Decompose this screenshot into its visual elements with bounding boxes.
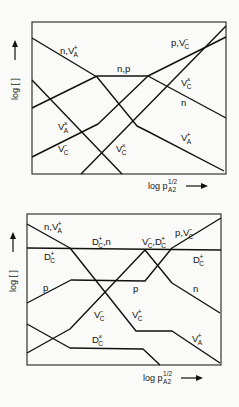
curve-label: n,V+A: [60, 44, 79, 58]
brouwer-diagrams: n,V+An,pp,V−CV×CnV×AV−CV×CV+Alog p1/2A2l…: [0, 0, 239, 407]
curve-label: p: [43, 282, 48, 293]
curve-label: V−C: [58, 142, 69, 156]
curve-label: V+C: [132, 308, 143, 322]
defect-concentration-line: [32, 80, 122, 174]
defect-concentration-line: [32, 76, 148, 157]
curve-label: V+A: [192, 332, 203, 346]
x-axis-label: log p1/2A2: [143, 370, 172, 385]
arrow-head-icon: [196, 375, 203, 381]
chart-2: n,V+AD+CD+C,nV−C,D+Cp,V−CD+CppnV−CV+CD×C…: [8, 214, 221, 385]
curve-label: p,V−C: [171, 36, 190, 50]
defect-concentration-line: [27, 248, 221, 250]
y-axis-label-group: log [ ]: [10, 40, 20, 100]
y-axis-label: log [ ]: [10, 78, 20, 100]
arrow-head-icon: [12, 40, 18, 47]
x-axis-label: log p1/2A2: [148, 178, 177, 193]
curve-label: V−C,D+C: [142, 235, 166, 249]
curve-label: D+C: [193, 253, 204, 267]
curve-label: n,V+A: [44, 220, 63, 234]
curve-label: D+C,n: [92, 235, 111, 249]
curve-label: n,p: [117, 63, 130, 74]
curve-label: n: [193, 283, 198, 294]
curve-label: D+C: [44, 250, 55, 264]
curve-label: V+A: [181, 131, 192, 145]
curve-label: V×C: [181, 76, 192, 90]
arrow-head-icon: [10, 232, 16, 239]
curve-label: p,V−C: [175, 226, 194, 240]
curve-label: p: [133, 283, 138, 294]
curve-label: D×C: [92, 333, 103, 347]
curve-label: n: [181, 97, 186, 108]
curve-label: V×A: [58, 120, 69, 134]
curve-label: V×C: [116, 142, 127, 156]
y-axis-label-group: log [ ]: [8, 232, 18, 292]
chart-1: n,V+An,pp,V−CV×CnV×AV−CV×CV+Alog p1/2A2l…: [10, 22, 226, 193]
defect-concentration-line: [81, 26, 226, 174]
arrow-head-icon: [201, 183, 208, 189]
y-axis-label: log [ ]: [8, 270, 18, 292]
curve-label: V−C: [94, 308, 105, 322]
